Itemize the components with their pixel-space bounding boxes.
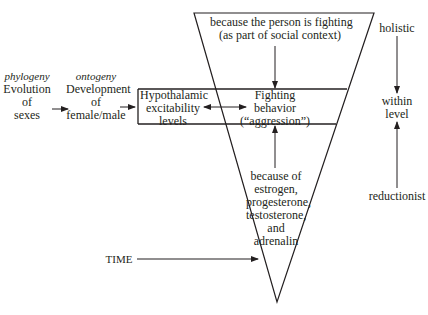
behavior-text: Fighting behavior (“aggression”) xyxy=(240,89,310,128)
diagram-canvas xyxy=(0,0,428,315)
holistic-label: holistic xyxy=(377,22,417,35)
time-label: TIME xyxy=(104,253,134,266)
within-level-line-2: level xyxy=(377,108,417,121)
hypothalamic-line-3: levels xyxy=(140,115,206,128)
reductionist-label: reductionist xyxy=(364,190,428,203)
top-cause-line-2: (as part of social context) xyxy=(210,29,350,42)
behavior-line-3: (“aggression”) xyxy=(240,115,310,128)
phylogeny-block: phylogeny Evolution of sexes xyxy=(2,70,52,122)
phylogeny-line-3: sexes xyxy=(2,109,52,122)
bottom-cause-text: because of estrogen, progesterone, testo… xyxy=(246,170,306,248)
hypothalamic-block: Hypothalamic excitability levels xyxy=(140,89,206,128)
within-level-label: within level xyxy=(377,95,417,121)
ontogeny-block: ontogeny Development of female/male xyxy=(66,70,126,122)
top-cause-text: because the person is fighting (as part … xyxy=(210,16,350,42)
ontogeny-line-3: female/male xyxy=(66,109,126,122)
bottom-cause-line-6: adrenalin xyxy=(246,235,306,248)
